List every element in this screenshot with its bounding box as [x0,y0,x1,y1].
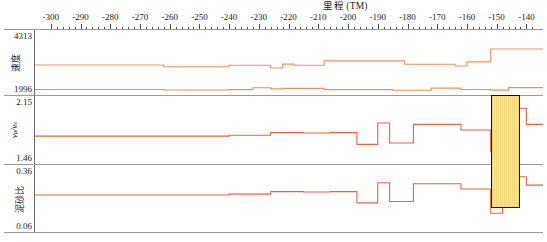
panel-vpvs-curves [35,96,543,164]
axis-tick-label: -150 [488,11,505,23]
axis-tick-label: -290 [72,11,89,23]
axis-tick-labels: -300-290-280-270-260-250-240-230-220-210… [0,11,547,23]
panel-sandmudratio: 0.36 泥砂比 0.06 [4,164,543,232]
curve-velocity [35,88,543,91]
panel-vpvs-label: vₚ/vₛ [9,122,19,138]
panel-bottom-line [4,232,543,233]
axis-title-text: 里程 (TM) [323,1,367,11]
axis-tick-label: -170 [429,11,446,23]
panel-velocity-label: 速度 [9,54,22,72]
axis-tick-label: -220 [280,11,297,23]
axis-tick-label: -240 [221,11,238,23]
panel-sandmudratio-max: 0.36 [4,166,32,176]
axis-tick-label: -210 [310,11,327,23]
panel-velocity-min: 1996 [4,84,32,94]
axis-tick-label: -140 [518,11,535,23]
seismic-attribute-log-chart: 里程 (TM) -300-290-280-270-260-250-240-230… [0,0,547,242]
plot-frame: 4313 速度 1996 2.15 vₚ/vₛ 1.46 0.3 [4,29,543,233]
curve-vpvs [35,108,543,152]
curve-sandmudratio [35,177,543,213]
panel-velocity: 4313 速度 1996 [4,29,543,95]
axis-tick-label: -250 [191,11,208,23]
curve-velocity [35,49,543,68]
panel-vpvs: 2.15 vₚ/vₛ 1.46 [4,95,543,164]
panel-sandmudratio-plotarea [35,165,543,232]
panel-vpvs-plotarea [35,96,543,164]
panel-velocity-max: 4313 [4,31,32,41]
panel-vpvs-max: 2.15 [4,97,32,107]
axis-tick-label: -160 [459,11,476,23]
axis-tick-label: -230 [251,11,268,23]
axis-tick-label: -190 [369,11,386,23]
panel-velocity-curves [35,30,543,95]
axis-tick-label: -280 [102,11,119,23]
axis-tick-label: -270 [132,11,149,23]
axis-tick-label: -260 [161,11,178,23]
panel-sandmudratio-label: 泥砂比 [13,185,26,212]
panel-sandmudratio-axis: 0.36 泥砂比 0.06 [4,165,34,232]
panel-vpvs-min: 1.46 [4,153,32,163]
panel-velocity-axis: 4313 速度 1996 [4,30,34,95]
axis-tick-label: -200 [340,11,357,23]
axis-tick-label: -300 [43,11,60,23]
panel-sandmudratio-min: 0.06 [4,221,32,231]
panel-velocity-plotarea [35,30,543,95]
panel-sandmudratio-curves [35,165,543,232]
panel-vpvs-axis: 2.15 vₚ/vₛ 1.46 [4,96,34,164]
axis-tick-label: -180 [399,11,416,23]
